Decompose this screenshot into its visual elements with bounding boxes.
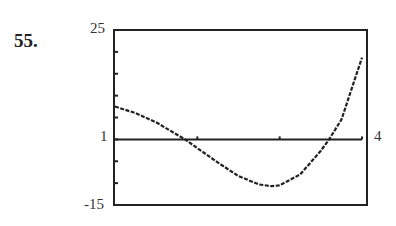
plot-frame [114, 30, 367, 205]
chart [0, 0, 396, 226]
x-min-label: 1 [100, 128, 108, 145]
y-max-label: 25 [90, 20, 105, 37]
x-max-label: 4 [374, 128, 382, 145]
series-line [115, 58, 362, 187]
y-min-label: -15 [84, 196, 104, 213]
